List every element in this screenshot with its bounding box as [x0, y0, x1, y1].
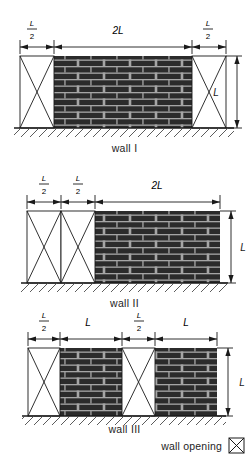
svg-text:L: L: [30, 19, 34, 28]
svg-text:L: L: [137, 311, 141, 320]
svg-text:2: 2: [30, 32, 35, 41]
wall-1-drawing: L 2 2L L 2: [0, 14, 249, 140]
wall-2-dimension-labels: L 2 L 2 2L: [39, 174, 163, 196]
wall-3-opening-1: [28, 348, 60, 416]
svg-text:L: L: [42, 174, 46, 183]
dim-label-full-b: L: [183, 317, 189, 328]
legend: wall opening: [161, 437, 245, 454]
wall-2-brick-panel: [95, 211, 220, 283]
wall-3-body: [28, 348, 217, 416]
wall-1-ground: [14, 128, 234, 137]
wall-1-height-dimension: [226, 56, 242, 128]
svg-text:2: 2: [42, 324, 47, 333]
dim-label-full-a: L: [85, 317, 91, 328]
wall-2-opening-1: [27, 211, 61, 283]
legend-label: wall opening: [161, 440, 222, 452]
wall-2-height-label: L: [240, 242, 246, 253]
diagram-page: L 2 2L L 2: [0, 0, 249, 458]
dim-label-half-2: L 2: [73, 174, 83, 196]
dim-label-half-1: L 2: [39, 174, 49, 196]
wall-3-figure: L 2 L L 2 L: [0, 306, 249, 428]
wall-1-body: [20, 56, 226, 128]
dim-label-left-half: L 2: [27, 19, 37, 41]
wall-1-dimension-labels: L 2 2L L 2: [27, 19, 213, 41]
wall-2-ground: [21, 283, 228, 292]
wall-2-dimension-lines: [27, 195, 220, 209]
wall-opening-icon: [228, 437, 245, 454]
wall-3-opening-2: [122, 348, 155, 416]
wall-3-dimension-labels: L 2 L L 2 L: [39, 311, 189, 333]
svg-text:2: 2: [206, 32, 211, 41]
dim-label-half-a: L 2: [39, 311, 49, 333]
wall-3-height-label: L: [239, 377, 245, 388]
wall-2-drawing: L 2 L 2 2L: [0, 169, 249, 295]
svg-text:2: 2: [42, 187, 47, 196]
svg-text:L: L: [42, 311, 46, 320]
dim-label-center-double: 2L: [111, 25, 123, 36]
svg-text:L: L: [206, 19, 210, 28]
wall-2-body: [27, 211, 220, 283]
wall-2-opening-2: [61, 211, 95, 283]
svg-text:2: 2: [76, 187, 81, 196]
dim-label-double: 2L: [150, 180, 162, 191]
wall-3-height-dimension: [217, 348, 233, 416]
wall-1-height-label: L: [213, 87, 219, 98]
wall-3-brick-panel-2: [155, 348, 217, 416]
wall-3-brick-panel-1: [60, 348, 122, 416]
wall-2-height-dimension: [220, 211, 236, 283]
svg-text:L: L: [76, 174, 80, 183]
svg-text:2: 2: [137, 324, 142, 333]
wall-1-brick-panel: [54, 56, 192, 128]
wall-2-figure: L 2 L 2 2L: [0, 169, 249, 295]
wall-1-dimension-lines: [20, 40, 226, 54]
wall-1-opening-left: [20, 56, 54, 128]
dim-label-right-half: L 2: [203, 19, 213, 41]
dim-label-half-b: L 2: [134, 311, 144, 333]
wall-1-caption: wall I: [0, 142, 249, 154]
wall-1-figure: L 2 2L L 2: [0, 14, 249, 140]
wall-3-drawing: L 2 L L 2 L: [0, 306, 249, 428]
wall-3-dimension-lines: [28, 332, 217, 346]
wall-1-opening-right: [192, 56, 226, 128]
wall-3-caption: wall III: [0, 423, 249, 435]
